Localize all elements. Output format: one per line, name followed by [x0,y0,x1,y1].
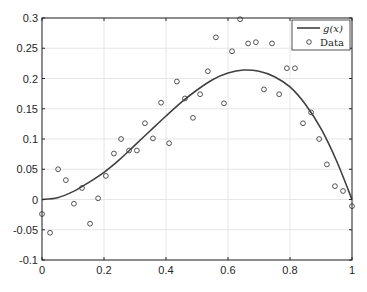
data-point [72,201,77,206]
x-tick-label: 0.8 [282,264,297,276]
x-tick-label: 0 [39,264,45,276]
data-point [198,92,203,97]
data-point [222,101,227,106]
data-point [88,221,93,226]
data-point [246,41,251,46]
y-tick-label: -0.05 [13,224,38,236]
data-point [324,162,329,167]
grid-lines [42,18,352,260]
data-point [285,66,290,71]
y-tick-label: 0.15 [17,103,38,115]
legend-label-data: Data [320,37,344,48]
data-point [230,49,235,54]
legend-label-g: g(x) [323,23,343,34]
data-point [112,151,117,156]
y-tick-label: 0.1 [23,133,38,145]
data-point [333,184,338,189]
y-tick-label: 0.25 [17,42,38,54]
data-point [63,178,68,183]
g-curve-series [42,70,352,200]
tick-labels: 00.20.40.60.81-0.1-0.0500.050.10.150.20.… [13,12,355,276]
data-point [151,136,156,141]
data-point [191,115,196,120]
x-tick-label: 0.6 [220,264,235,276]
data-point [341,189,346,194]
y-tick-label: 0 [32,194,38,206]
data-point [301,121,306,126]
x-tick-label: 1 [349,264,355,276]
y-tick-label: 0.3 [23,12,38,24]
data-point [254,40,259,45]
data-point [262,87,267,92]
data-point [167,141,172,146]
g-curve-line [42,70,352,200]
data-point [205,69,210,74]
data-point [48,230,53,235]
data-point [270,41,275,46]
data-point [293,66,298,71]
data-point [277,92,282,97]
data-point [159,100,164,105]
data-point [143,121,148,126]
data-point [214,35,219,40]
y-tick-label: -0.1 [19,254,38,266]
x-tick-label: 0.2 [96,264,111,276]
x-tick-label: 0.4 [158,264,173,276]
y-tick-label: 0.05 [17,163,38,175]
chart: 00.20.40.60.81-0.1-0.0500.050.10.150.20.… [0,0,367,292]
data-point [174,79,179,84]
y-tick-label: 0.2 [23,73,38,85]
data-point [134,148,139,153]
legend: g(x) Data [292,20,350,50]
